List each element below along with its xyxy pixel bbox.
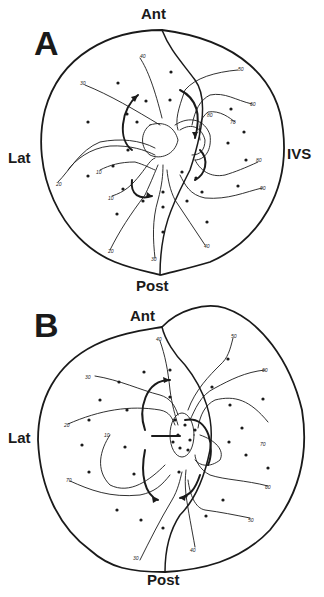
contour-label: 60 xyxy=(265,484,271,490)
contour-label: 30 xyxy=(80,80,86,86)
panel-b: B Ant Lat Post xyxy=(0,300,324,597)
contour-label: 20 xyxy=(55,181,62,187)
contour-label: 40 xyxy=(156,336,162,342)
panel-a: A Ant Lat IVS Post xyxy=(0,0,324,300)
contour-label: 70 xyxy=(260,441,266,447)
contour-label: 70 xyxy=(66,477,72,483)
contour-label: 70 xyxy=(230,119,236,125)
septal-boundary xyxy=(160,30,203,275)
contour-label: 30 xyxy=(85,374,91,380)
contour-label: 10 xyxy=(96,169,102,175)
contour-label: 80 xyxy=(207,112,213,118)
contour-label: 10 xyxy=(104,432,110,438)
contour-label: 40 xyxy=(204,243,210,249)
contour-map-b: 40 50 60 30 20 10 70 70 60 50 30 40 xyxy=(0,300,324,597)
contour-label: 50 xyxy=(248,517,254,523)
contour-label: 60 xyxy=(262,367,268,373)
contour-label: 40 xyxy=(190,547,196,553)
contour-map-a: 40 30 50 60 70 80 80 90 20 10 10 20 30 4… xyxy=(0,0,324,300)
recording-sites xyxy=(80,357,269,529)
contour-label: 10 xyxy=(108,195,114,201)
contour-label: 80 xyxy=(256,157,262,163)
contour-label: 30 xyxy=(151,256,157,262)
contour-label: 40 xyxy=(140,53,146,59)
contour-label: 20 xyxy=(107,248,114,254)
contour-label: 90 xyxy=(260,185,266,191)
contour-label: 50 xyxy=(231,333,237,339)
contour-label: 50 xyxy=(238,66,244,72)
contour-label: 30 xyxy=(133,555,139,561)
contour-label: 20 xyxy=(63,422,70,428)
contour-label: 60 xyxy=(250,101,256,107)
